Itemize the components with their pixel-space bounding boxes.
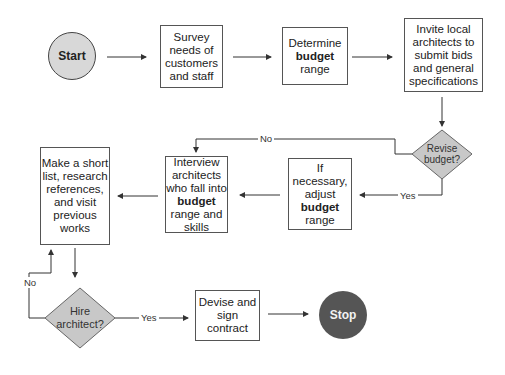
devise-line-2: sign xyxy=(199,309,257,322)
survey-line-1: Survey xyxy=(165,31,218,44)
shortlist-line-4: and visit xyxy=(42,196,108,209)
adjust-bold: budget xyxy=(301,201,339,213)
adjust-line-1: If xyxy=(293,162,348,175)
shortlist-line-6: works xyxy=(42,222,108,235)
hire-architect-label: Hire architect? xyxy=(50,305,110,331)
interview-line-1: Interview xyxy=(166,156,227,169)
start-label: Start xyxy=(58,50,85,63)
interview-line-3: who fall into xyxy=(166,182,227,195)
short-list-box: Make a short list, research references, … xyxy=(40,147,110,245)
determine-budget-box: Determine budget range xyxy=(282,27,348,85)
hire-yes-label: Yes xyxy=(139,312,159,323)
shortlist-line-1: Make a short xyxy=(42,157,108,170)
survey-line-4: and staff xyxy=(165,70,218,83)
interview-line-2: architects xyxy=(166,169,227,182)
stop-node: Stop xyxy=(319,291,367,339)
interview-line-5: range and xyxy=(166,208,227,221)
interview-architects-box: Interview architects who fall into budge… xyxy=(165,156,228,233)
arrow-revise-no xyxy=(196,139,412,154)
determine-line-3: range xyxy=(288,63,341,76)
adjust-line-2: necessary, xyxy=(293,175,348,188)
revise-no-label: No xyxy=(258,133,274,144)
adjust-line-5: range xyxy=(293,214,348,227)
devise-contract-box: Devise and sign contract xyxy=(195,290,260,341)
revise-line-1: Revise xyxy=(417,143,467,154)
shortlist-line-2: list, research xyxy=(42,170,108,183)
invite-architects-box: Invite local architects to submit bids a… xyxy=(404,18,483,92)
determine-bold: budget xyxy=(296,50,334,62)
hire-line-1: Hire xyxy=(50,305,110,318)
invite-line-5: specifications xyxy=(409,75,478,88)
determine-line-1: Determine xyxy=(288,37,341,50)
interview-line-6: skills xyxy=(166,221,227,234)
invite-line-4: and general xyxy=(409,62,478,75)
devise-line-1: Devise and xyxy=(199,296,257,309)
start-node: Start xyxy=(48,32,96,80)
adjust-budget-box: If necessary, adjust budget range xyxy=(288,158,352,230)
adjust-line-3: adjust xyxy=(293,188,348,201)
survey-line-3: customers xyxy=(165,57,218,70)
survey-line-2: needs of xyxy=(165,44,218,57)
revise-budget-label: Revise budget? xyxy=(417,143,467,165)
invite-line-2: architects to xyxy=(409,36,478,49)
revise-line-2: budget? xyxy=(417,154,467,165)
hire-line-2: architect? xyxy=(50,318,110,331)
revise-yes-label: Yes xyxy=(398,190,418,201)
hire-no-label: No xyxy=(22,277,38,288)
shortlist-line-3: references, xyxy=(42,183,108,196)
invite-line-1: Invite local xyxy=(409,23,478,36)
survey-needs-box: Survey needs of customers and staff xyxy=(160,25,223,88)
shortlist-line-5: previous xyxy=(42,209,108,222)
interview-bold: budget xyxy=(177,195,215,207)
invite-line-3: submit bids xyxy=(409,49,478,62)
stop-label: Stop xyxy=(330,309,357,322)
devise-line-3: contract xyxy=(199,322,257,335)
